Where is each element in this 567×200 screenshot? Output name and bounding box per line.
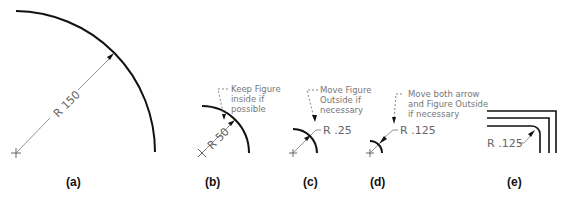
note-line: necessary [320, 105, 363, 115]
leader-line [394, 94, 402, 120]
note-line: Keep Figure [231, 84, 281, 94]
dimension-label: R 50 [205, 125, 232, 152]
arc-a [16, 11, 155, 152]
arrowhead-icon [379, 136, 387, 144]
figure-b: R 50 Keep Figure inside if possible (b) [198, 84, 281, 189]
figure-e: R .125 (e) [487, 111, 556, 189]
note-line: Move Figure [320, 85, 371, 95]
caption-c: (c) [303, 175, 318, 189]
figure-a: R 150 (a) [11, 11, 155, 189]
note-line: if necessary [408, 109, 459, 119]
caption-b: (b) [205, 175, 220, 189]
figure-c: R .25 Move Figure Outside if necessary (… [289, 85, 371, 189]
dimension-label: R 150 [51, 88, 83, 120]
dimension-label: R .125 [400, 124, 436, 137]
note-line: possible [231, 104, 266, 114]
note-line: Outside if [320, 95, 362, 105]
radius-dimension-diagram: R 150 (a) R 50 Keep Figure inside if pos… [0, 0, 567, 200]
arrowhead-icon [107, 53, 114, 60]
arrowhead-icon [304, 135, 311, 141]
caption-e: (e) [507, 175, 522, 189]
note-line: Move both arrow [408, 89, 480, 99]
caption-a: (a) [66, 175, 81, 189]
caption-d: (d) [370, 175, 385, 189]
note-line: inside if [231, 94, 265, 104]
dimension-label: R .25 [323, 124, 352, 137]
note-line: and Figure Outside [408, 99, 488, 109]
figure-d: R .125 Move both arrow and Figure Outsid… [366, 89, 488, 189]
arrowhead-icon [528, 130, 535, 137]
leader-line [307, 90, 318, 118]
dimension-label: R .125 [487, 137, 523, 150]
arrowhead-icon [228, 120, 235, 126]
